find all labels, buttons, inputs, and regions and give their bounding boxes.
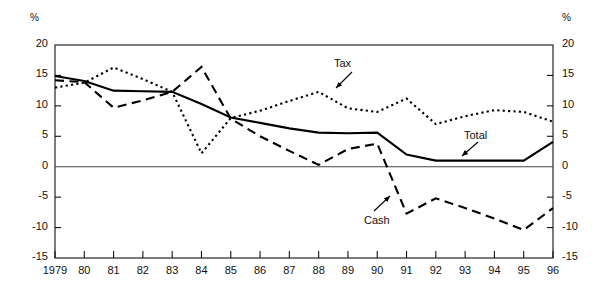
- annotation-cash: Cash: [364, 214, 390, 226]
- y-tick-label-left: 0: [8, 159, 48, 171]
- plot-frame: [55, 45, 553, 258]
- x-tick-label: 96: [531, 264, 575, 276]
- chart-plot-area: [0, 0, 600, 287]
- y-tick-label-left: 15: [8, 67, 48, 79]
- y-tick-label-left: 5: [8, 128, 48, 140]
- y-tick-label-right: -10: [562, 220, 600, 232]
- annotation-total: Total: [464, 129, 487, 141]
- y-tick-label-right: 20: [562, 37, 600, 49]
- y-tick-label-right: 0: [562, 159, 600, 171]
- y-tick-label-right: 15: [562, 67, 600, 79]
- y-tick-label-right: 5: [562, 128, 600, 140]
- y-tick-label-left: 20: [8, 37, 48, 49]
- y-tick-label-left: 10: [8, 98, 48, 110]
- annotation-tax: Tax: [334, 57, 351, 69]
- y-tick-label-left: -15: [8, 250, 48, 262]
- y-tick-label-right: 10: [562, 98, 600, 110]
- chart-container: % % 20151050-5-10-15 20151050-5-10-15 19…: [0, 0, 600, 287]
- y-tick-label-right: -15: [562, 250, 600, 262]
- y-tick-label-left: -5: [8, 189, 48, 201]
- y-tick-label-left: -10: [8, 220, 48, 232]
- y-tick-label-right: -5: [562, 189, 600, 201]
- series-line-total: [55, 76, 553, 161]
